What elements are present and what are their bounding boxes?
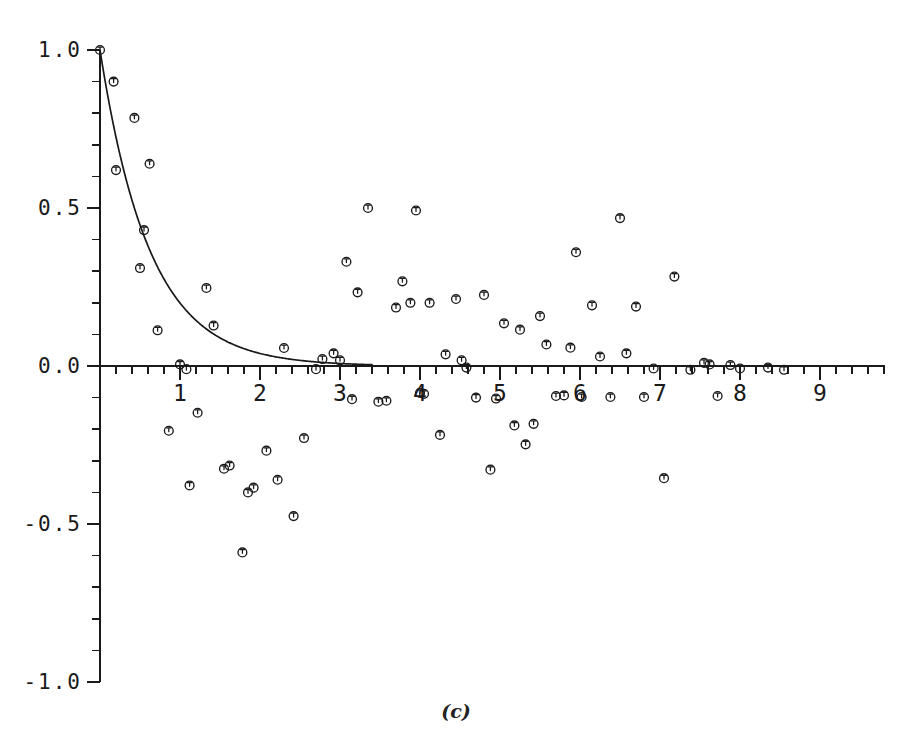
data-point-marker <box>425 298 434 307</box>
y-tick-label: 0.0 <box>38 354 82 378</box>
y-tick-label: -1.0 <box>23 670 82 694</box>
data-point-marker <box>353 288 362 297</box>
data-point-marker <box>572 248 581 257</box>
data-point-marker <box>398 277 407 286</box>
x-tick-label: 4 <box>413 380 427 406</box>
data-point-marker <box>300 434 309 443</box>
y-tick-label: 0.5 <box>38 196 82 220</box>
data-point-marker <box>262 446 271 455</box>
data-point-marker <box>529 419 538 428</box>
data-points <box>96 46 789 557</box>
data-point-marker <box>364 204 373 213</box>
y-tick-label: -0.5 <box>23 512 82 536</box>
data-point-marker <box>622 349 631 358</box>
data-point-marker <box>536 312 545 321</box>
data-point-marker <box>472 393 481 402</box>
data-point-marker <box>136 264 145 273</box>
data-point-marker <box>238 548 247 557</box>
data-point-marker <box>510 421 519 430</box>
data-point-marker <box>566 343 575 352</box>
data-point-marker <box>244 488 253 497</box>
data-point-marker <box>640 393 649 402</box>
x-tick-label: 8 <box>733 380 747 406</box>
data-point-marker <box>616 214 625 223</box>
data-point-marker <box>273 475 282 484</box>
x-tick-label: 6 <box>573 380 587 406</box>
y-tick-label: 1.0 <box>38 38 82 62</box>
data-point-marker <box>436 430 445 439</box>
data-point-marker <box>342 257 351 266</box>
data-point-marker <box>392 303 401 312</box>
data-point-marker <box>780 365 789 374</box>
data-point-marker <box>406 298 415 307</box>
data-point-marker <box>705 360 714 369</box>
data-point-marker <box>713 392 722 401</box>
data-point-marker <box>462 363 471 372</box>
data-point-marker <box>441 350 450 359</box>
data-point-marker <box>480 291 489 300</box>
data-point-marker <box>521 440 530 449</box>
data-point-marker <box>500 319 509 328</box>
data-point-marker <box>764 363 773 372</box>
data-point-marker <box>249 483 258 492</box>
fitted-curve <box>100 50 372 365</box>
data-point-marker <box>649 364 658 373</box>
data-point-marker <box>153 326 162 335</box>
data-point-marker <box>588 301 597 310</box>
data-point-marker <box>202 284 211 293</box>
data-point-marker <box>486 465 495 474</box>
data-point-marker <box>280 344 289 353</box>
data-point-marker <box>312 365 321 374</box>
data-point-marker <box>209 321 218 330</box>
figure-caption: (c) <box>0 700 912 722</box>
x-tick-label: 2 <box>253 380 267 406</box>
data-point-marker <box>726 361 735 370</box>
data-point-marker <box>164 426 173 435</box>
data-point-marker <box>289 512 298 521</box>
data-point-marker <box>145 159 154 168</box>
data-point-marker <box>130 114 139 123</box>
scatter-plot <box>0 0 912 745</box>
data-point-marker <box>632 302 641 311</box>
x-tick-label: 5 <box>493 380 507 406</box>
data-point-marker <box>112 166 121 175</box>
x-tick-label: 1 <box>173 380 187 406</box>
data-point-marker <box>182 365 191 374</box>
data-point-marker <box>670 272 679 281</box>
data-point-marker <box>348 395 357 404</box>
data-point-marker <box>140 226 149 235</box>
x-tick-label: 7 <box>653 380 667 406</box>
data-point-marker <box>516 325 525 334</box>
data-point-marker <box>185 481 194 490</box>
x-tick-label: 3 <box>333 380 347 406</box>
data-point-marker <box>329 349 338 358</box>
data-point-marker <box>412 206 421 215</box>
data-point-marker <box>452 295 461 304</box>
data-point-marker <box>193 408 202 417</box>
data-point-marker <box>109 77 118 86</box>
data-point-marker <box>660 474 669 483</box>
data-point-marker <box>606 393 615 402</box>
data-point-marker <box>542 340 551 349</box>
data-point-marker <box>686 365 695 374</box>
x-tick-label: 9 <box>813 380 827 406</box>
figure-panel: -1.0-0.50.00.51.0 123456789 (c) <box>0 0 912 745</box>
axes <box>87 50 885 682</box>
data-point-marker <box>596 352 605 361</box>
